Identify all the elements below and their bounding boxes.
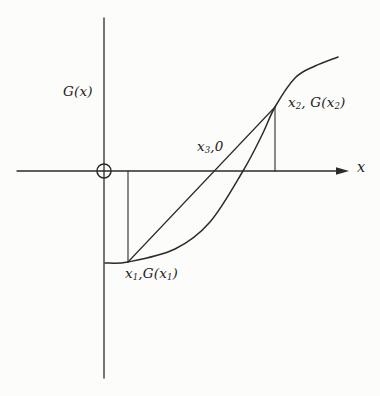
g-curve [105,57,338,263]
secant-line [128,107,275,262]
secant-root-var: x [197,138,205,154]
upper-point-mid: , G(x [301,94,334,110]
lower-point-var: x [125,265,133,281]
lower-point-mid: ,G(x [138,265,167,281]
x-axis-arrowhead [336,167,349,175]
lower-point-label: x1,G(x1) [125,266,178,282]
upper-point-rest: ) [340,94,345,110]
upper-point-var: x [288,94,296,110]
y-axis-label-text: G(x) [63,83,93,99]
x-axis-label-text: x [357,159,365,175]
upper-point-label: x2, G(x2) [288,95,345,111]
figure-canvas [0,0,380,396]
x-axis-label: x [357,159,365,176]
lower-point-rest: ) [172,265,177,281]
secant-root-label: x3,0 [197,139,224,155]
figure-strokes [17,18,349,378]
y-axis-label: G(x) [63,84,93,100]
secant-method-figure: G(x) x x3,0 x2, G(x2) x1,G(x1) [0,0,380,396]
secant-root-rest: ,0 [210,138,223,154]
